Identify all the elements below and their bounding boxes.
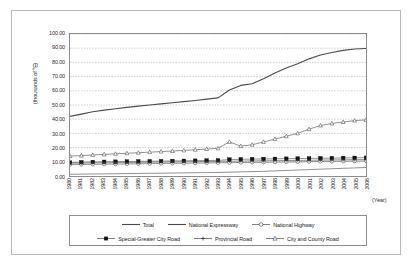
legend-marker (97, 235, 115, 242)
plot-area (69, 33, 367, 177)
y-axis-tick-label: 60.00 (29, 87, 65, 93)
x-axis-tick-label: 2002 (318, 178, 324, 190)
x-axis-tick-label: 1997 (261, 178, 267, 190)
x-axis-title: (Year) (372, 197, 386, 203)
x-axis-tick-label: 1987 (146, 178, 152, 190)
x-axis-tick-label: 1992 (204, 178, 210, 190)
y-axis-tick-label: 30.00 (29, 131, 65, 137)
y-axis-tick-label: 90.00 (29, 44, 65, 50)
legend-item-label: National Expressway (189, 222, 238, 228)
legend-item[interactable]: Provincial Road (194, 235, 252, 242)
x-axis-tick-label: 2001 (307, 178, 313, 190)
legend-item-label: Total (143, 222, 154, 228)
legend-marker (194, 235, 212, 242)
legend-marker (252, 221, 270, 228)
legend-row: TotalNational ExpresswayNational Highway (70, 217, 366, 232)
x-axis-tick-label: 2006 (364, 178, 370, 190)
legend-item-label: Provincial Road (215, 236, 252, 242)
y-axis-tick-label: 10.00 (29, 159, 65, 165)
y-axis-tick-label: 0.00 (29, 174, 65, 180)
x-axis-tick-label: 1994 (226, 178, 232, 190)
legend-marker (122, 221, 140, 228)
x-axis-tick-label: 1984 (112, 178, 118, 190)
plot-wrapper: 0.0010.0020.0030.0040.0050.0060.0070.008… (69, 33, 367, 177)
legend-item-label: National Highway (273, 222, 314, 228)
legend-item-label: Special-Greater City Road (118, 236, 180, 242)
y-axis-tick-label: 20.00 (29, 145, 65, 151)
x-axis-tick-label: 1990 (181, 178, 187, 190)
chart-figure: (thousands of ㎡) 0.0010.0020.0030.0040.0… (11, 10, 401, 255)
legend-item[interactable]: National Highway (252, 221, 314, 228)
legend-marker (168, 221, 186, 228)
x-axis-tick-label: 2005 (353, 178, 359, 190)
x-axis-tick-label: 1986 (135, 178, 141, 190)
x-axis-tick-label: 1985 (123, 178, 129, 190)
y-axis-tick-label: 50.00 (29, 102, 65, 108)
y-axis-tick-label: 40.00 (29, 116, 65, 122)
x-axis-tick-label: 1981 (77, 178, 83, 190)
x-axis-tick-label: 1989 (169, 178, 175, 190)
x-axis-tick-label: 1988 (158, 178, 164, 190)
x-axis-tick-label: 1980 (66, 178, 72, 190)
y-axis-tick-label: 100.00 (29, 30, 65, 36)
y-axis-title: (thousands of ㎡) (31, 63, 41, 104)
x-axis-tick-label: 2003 (330, 178, 336, 190)
legend-marker (266, 235, 284, 242)
x-axis-tick-label: 1996 (249, 178, 255, 190)
x-axis-tick-label: 1999 (284, 178, 290, 190)
y-axis-tick-label: 70.00 (29, 73, 65, 79)
legend-item[interactable]: Special-Greater City Road (97, 235, 180, 242)
legend-item[interactable]: City and County Road (266, 235, 339, 242)
legend-row: Special-Greater City RoadProvincial Road… (70, 231, 366, 246)
legend-item[interactable]: National Expressway (168, 221, 238, 228)
x-axis-tick-label: 1991 (192, 178, 198, 190)
x-axis-tick-label: 1993 (215, 178, 221, 190)
x-axis-tick-label: 1998 (272, 178, 278, 190)
x-axis-tick-label: 2000 (295, 178, 301, 190)
x-axis-ticks: 1980198119821983198419851986198719881989… (69, 178, 367, 212)
y-axis-tick-label: 80.00 (29, 59, 65, 65)
x-axis-tick-label: 1982 (89, 178, 95, 190)
x-axis-tick-label: 1983 (100, 178, 106, 190)
chart-legend: TotalNational ExpresswayNational Highway… (69, 215, 367, 246)
x-axis-tick-label: 2004 (341, 178, 347, 190)
legend-item-label: City and County Road (287, 236, 339, 242)
chart-svg (70, 34, 366, 176)
x-axis-tick-label: 1995 (238, 178, 244, 190)
legend-item[interactable]: Total (122, 221, 154, 228)
